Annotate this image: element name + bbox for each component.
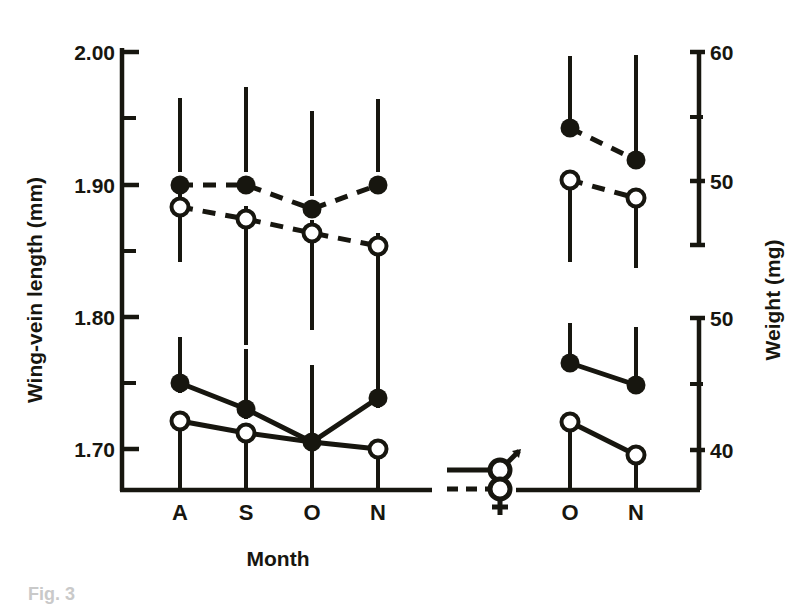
marker-filled-circle	[561, 119, 580, 138]
series-line-weight-male-open	[570, 422, 636, 455]
left-y-ticklabel-1-70: 1.70	[74, 438, 115, 461]
marker-filled-circle	[237, 400, 256, 419]
left-y-ticklabel-1-80: 1.80	[74, 306, 115, 329]
marker-filled-circle	[171, 374, 190, 393]
marker-filled-circle	[627, 151, 646, 170]
markers-weight-female-filled	[561, 119, 646, 170]
lower-weight-ticklabel-50: 50	[710, 307, 733, 330]
marker-filled-circle	[561, 354, 580, 373]
upper-weight-ticklabel-60: 60	[710, 41, 733, 64]
left-x-axis-title: Month	[247, 547, 310, 570]
marker-filled-circle	[303, 433, 322, 452]
marker-open-circle	[172, 413, 189, 430]
lower-weight-ticklabel-40: 40	[710, 439, 733, 462]
marker-open-circle	[370, 238, 387, 255]
marker-open-circle	[562, 172, 579, 189]
right-female-error-bars	[570, 55, 636, 268]
marker-filled-circle	[237, 176, 256, 195]
left-x-ticklabel-O: O	[303, 500, 320, 525]
series-line-male-filled	[180, 383, 378, 442]
upper-weight-axis	[690, 52, 705, 245]
marker-filled-circle	[369, 389, 388, 408]
right-x-ticklabel-N: N	[628, 500, 644, 525]
left-x-ticklabel-A: A	[172, 500, 188, 525]
series-line-weight-female-filled	[570, 128, 636, 160]
left-y-axis-title: Wing-vein length (mm)	[23, 177, 46, 403]
marker-filled-circle	[627, 376, 646, 395]
right-y-axis-title: Weight (mg)	[761, 240, 784, 361]
figure-page: 2.00 1.90 1.80 1.70 Wing-vein length (mm…	[0, 0, 805, 605]
female-symbol-icon	[490, 479, 510, 515]
left-y-ticklabel-1-90: 1.90	[74, 174, 115, 197]
scientific-figure: 2.00 1.90 1.80 1.70 Wing-vein length (mm…	[0, 0, 805, 605]
left-y-ticklabel-2-00: 2.00	[74, 41, 115, 64]
marker-open-circle	[562, 414, 579, 431]
right-panel-axes	[516, 448, 700, 490]
upper-weight-ticklabel-50: 50	[710, 170, 733, 193]
male-symbol-icon	[490, 449, 521, 480]
right-male-error-bars	[570, 323, 636, 490]
left-x-ticklabel-S: S	[239, 500, 254, 525]
marker-filled-circle	[369, 176, 388, 195]
legend	[447, 449, 521, 515]
marker-open-circle	[238, 211, 255, 228]
left-female-error-bars	[180, 87, 378, 345]
marker-open-circle	[628, 190, 645, 207]
marker-filled-circle	[171, 176, 190, 195]
left-male-error-bars	[180, 333, 378, 490]
left-x-ticklabel-N: N	[370, 500, 386, 525]
lower-weight-axis	[690, 318, 705, 490]
right-x-ticklabel-O: O	[561, 500, 578, 525]
series-line-weight-male-filled	[570, 363, 636, 385]
figure-caption-partial: Fig. 3	[28, 584, 75, 604]
marker-open-circle	[172, 199, 189, 216]
marker-open-circle	[370, 441, 387, 458]
series-line-female-filled	[180, 185, 378, 209]
series-line-female-open	[180, 207, 378, 246]
marker-open-circle	[628, 447, 645, 464]
marker-filled-circle	[303, 200, 322, 219]
marker-open-circle	[304, 225, 321, 242]
marker-open-circle	[238, 425, 255, 442]
